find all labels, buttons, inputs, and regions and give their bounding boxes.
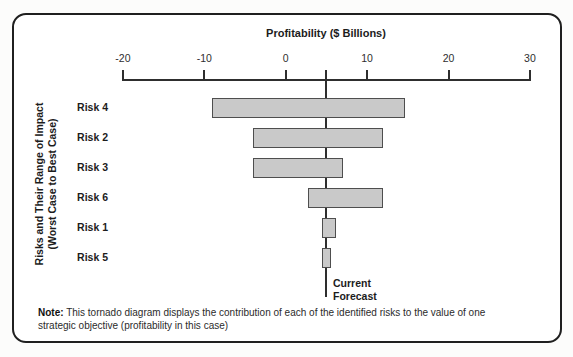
y-axis-label: Risks and Their Range of Impact (Worst C… (33, 89, 59, 279)
x-axis-tick-mark (366, 70, 368, 79)
risk-range-bar (253, 128, 383, 148)
x-axis-tick-mark (448, 70, 450, 79)
current-forecast-label: Current Forecast (333, 277, 377, 302)
chart-title: Profitability ($ Billions) (266, 27, 386, 39)
x-axis-tick-label: -10 (197, 52, 212, 64)
x-axis-tick-mark (203, 70, 205, 79)
x-axis-tick-label: 0 (283, 52, 289, 64)
current-forecast-label-line2: Forecast (333, 290, 377, 302)
x-axis-tick-label: 30 (524, 52, 536, 64)
note-body-line2: strategic objective (profitability in th… (38, 320, 228, 331)
tornado-diagram-figure: Profitability ($ Billions) -20-100102030… (0, 0, 573, 357)
risk-range-bar (322, 248, 331, 268)
x-axis-tick-label: -20 (115, 52, 130, 64)
note-text: Note: This tornado diagram displays the … (38, 306, 510, 332)
x-axis-tick-mark (529, 70, 531, 79)
x-axis-tick-label: 20 (443, 52, 455, 64)
risk-range-bar (322, 218, 337, 238)
risk-range-bar (253, 158, 343, 178)
y-axis-label-line1: Risks and Their Range of Impact (33, 103, 45, 266)
x-axis-tick-mark (285, 70, 287, 79)
x-axis-tick-label: 10 (361, 52, 373, 64)
risk-range-bar (212, 98, 405, 118)
y-axis-label-line2: (Worst Case to Best Case) (46, 118, 58, 249)
current-forecast-label-line1: Current (333, 277, 371, 289)
note-body-line1: This tornado diagram displays the contri… (64, 307, 486, 318)
risk-range-bar (308, 188, 384, 208)
note-label: Note: (38, 307, 64, 318)
x-axis-tick-mark (122, 70, 124, 79)
